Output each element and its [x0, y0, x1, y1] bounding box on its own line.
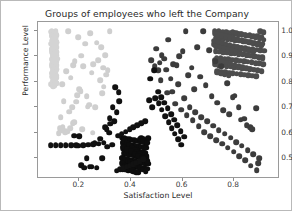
x-tick-mark [233, 178, 234, 181]
figure: Groups of employees who left the Company… [0, 0, 292, 211]
x-tick-mark [182, 178, 183, 181]
x-axis-label: Satisfaction Level [37, 191, 279, 200]
x-tick-label: 0.2 [63, 180, 93, 189]
x-tick-label: 0.6 [167, 180, 197, 189]
x-tick-mark [130, 178, 131, 181]
x-tick-mark [78, 178, 79, 181]
x-tick-label: 0.8 [218, 180, 248, 189]
x-tick-label: 0.4 [115, 180, 145, 189]
x-axis-ticks: 0.20.40.60.8 [1, 1, 292, 211]
